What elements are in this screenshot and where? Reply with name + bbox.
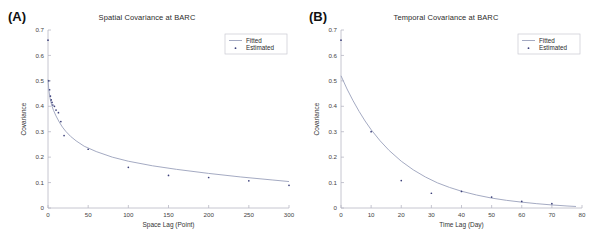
panel-b-plot: 00.10.20.30.40.50.60.701020304050607080T… [299, 0, 598, 246]
x-tick-label: 250 [244, 211, 255, 218]
estimated-data-point [54, 105, 56, 107]
y-tick-label: 0.2 [35, 153, 44, 160]
estimated-data-point [51, 102, 53, 104]
x-tick-label: 20 [398, 211, 405, 218]
estimated-data-point [63, 135, 65, 137]
estimated-data-point [551, 203, 553, 205]
x-tick-label: 40 [458, 211, 465, 218]
estimated-data-point [461, 191, 463, 193]
axis-spines [341, 30, 582, 208]
y-tick-label: 0.3 [328, 128, 337, 135]
panel-b: (B) Temporal Covariance at BARC 00.10.20… [299, 0, 598, 246]
estimated-data-point [49, 89, 51, 91]
estimated-data-point [521, 201, 523, 203]
legend-estimated-label: Estimated [246, 44, 274, 51]
y-axis-label: Covariance [20, 102, 27, 135]
x-tick-label: 100 [123, 211, 134, 218]
y-tick-label: 0 [334, 204, 338, 211]
y-tick-label: 0.4 [35, 102, 44, 109]
estimated-data-point [50, 99, 52, 101]
x-tick-label: 30 [428, 211, 435, 218]
y-tick-label: 0.6 [328, 52, 337, 59]
legend-fitted-label: Fitted [246, 37, 262, 44]
estimated-data-point [52, 104, 54, 106]
x-tick-label: 70 [548, 211, 555, 218]
estimated-data-point [47, 39, 49, 41]
y-tick-label: 0.5 [35, 77, 44, 84]
x-tick-label: 60 [518, 211, 525, 218]
panel-a-plot: 00.10.20.30.40.50.60.7050100150200250300… [0, 0, 299, 246]
legend-estimated-swatch [235, 47, 237, 49]
fitted-curve [48, 80, 289, 182]
legend-fitted-label: Fitted [539, 37, 555, 44]
y-tick-label: 0.2 [328, 153, 337, 160]
figure-container: (A) Spatial Covariance at BARC 00.10.20.… [0, 0, 598, 246]
fitted-curve [341, 76, 576, 207]
axis-spines [48, 30, 289, 208]
x-tick-label: 0 [339, 211, 343, 218]
estimated-data-point [60, 121, 62, 123]
y-tick-label: 0.7 [35, 26, 44, 33]
estimated-data-point [55, 109, 57, 111]
estimated-data-point [288, 185, 290, 187]
y-tick-label: 0 [41, 204, 45, 211]
y-tick-label: 0.6 [35, 52, 44, 59]
estimated-data-point [491, 196, 493, 198]
x-tick-label: 200 [204, 211, 215, 218]
estimated-data-point [58, 112, 60, 114]
y-tick-label: 0.4 [328, 102, 337, 109]
legend-estimated-label: Estimated [539, 44, 567, 51]
legend-estimated-swatch [528, 47, 530, 49]
x-tick-label: 80 [579, 211, 586, 218]
estimated-data-point [431, 192, 433, 194]
x-tick-label: 10 [368, 211, 375, 218]
panel-a: (A) Spatial Covariance at BARC 00.10.20.… [0, 0, 299, 246]
estimated-data-point [400, 180, 402, 182]
x-tick-label: 50 [85, 211, 92, 218]
y-tick-label: 0.1 [328, 179, 337, 186]
x-axis-label: Space Lag (Point) [142, 221, 194, 229]
x-tick-label: 0 [46, 211, 50, 218]
y-tick-label: 0.1 [35, 179, 44, 186]
x-tick-label: 50 [488, 211, 495, 218]
estimated-data-point [370, 131, 372, 133]
y-axis-label: Covariance [313, 102, 320, 135]
y-tick-label: 0.5 [328, 77, 337, 84]
estimated-data-point [168, 175, 170, 177]
estimated-data-point [248, 180, 250, 182]
estimated-data-point [208, 177, 210, 179]
estimated-data-point [48, 80, 50, 82]
x-tick-label: 150 [163, 211, 174, 218]
y-tick-label: 0.7 [328, 26, 337, 33]
x-tick-label: 300 [284, 211, 295, 218]
estimated-data-point [50, 95, 52, 97]
estimated-data-point [87, 148, 89, 150]
estimated-data-point [127, 166, 129, 168]
estimated-data-point [340, 39, 342, 41]
x-axis-label: Time Lag (Day) [439, 221, 484, 229]
y-tick-label: 0.3 [35, 128, 44, 135]
